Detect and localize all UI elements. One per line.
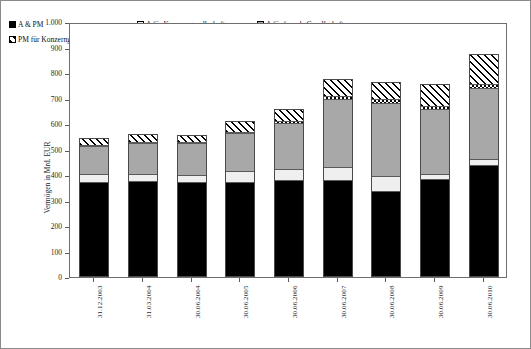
x-axis-tick-mark bbox=[191, 278, 192, 282]
x-axis-tick-mark bbox=[142, 278, 143, 282]
bar-slot bbox=[459, 24, 508, 277]
x-axis-tick-mark bbox=[337, 278, 338, 282]
stacked-bar[interactable] bbox=[420, 84, 450, 277]
bar-segment-akonz[interactable] bbox=[275, 170, 303, 181]
bar-slot bbox=[216, 24, 265, 277]
bar-segment-pmkonz[interactable] bbox=[275, 110, 303, 122]
y-axis-tick-label: 900 bbox=[28, 44, 62, 53]
bar-segment-pmkonz[interactable] bbox=[129, 135, 157, 143]
x-axis-tick-mark bbox=[385, 278, 386, 282]
y-axis-tick-label: 400 bbox=[28, 171, 62, 180]
bar-segment-pmkonz[interactable] bbox=[226, 122, 254, 133]
x-axis-tick-label: 30.06.2007 bbox=[340, 286, 348, 319]
bar-slot bbox=[167, 24, 216, 277]
stacked-bar[interactable] bbox=[274, 109, 304, 277]
x-axis-tick-label: 30.06.2010 bbox=[486, 286, 494, 319]
bar-segment-apm[interactable] bbox=[80, 183, 108, 276]
bar-segment-apm[interactable] bbox=[372, 192, 400, 276]
bar-segment-akonz[interactable] bbox=[129, 175, 157, 182]
bar-segment-akonz[interactable] bbox=[226, 172, 254, 183]
bar-segment-apm[interactable] bbox=[275, 181, 303, 276]
bar-segment-apm[interactable] bbox=[324, 181, 352, 276]
bar-segment-pmkonz[interactable] bbox=[372, 83, 400, 100]
x-axis-tick-label: 30.06.2004 bbox=[194, 286, 202, 319]
x-axis-tick-mark bbox=[93, 278, 94, 282]
x-axis-tick-mark bbox=[288, 278, 289, 282]
stacked-bar[interactable] bbox=[225, 121, 255, 277]
bar-segment-apm[interactable] bbox=[421, 180, 449, 276]
bar-slot bbox=[362, 24, 411, 277]
y-axis-tick-label: 100 bbox=[28, 248, 62, 257]
bar-segment-pmkonz[interactable] bbox=[421, 85, 449, 107]
x-axis-tick-label: 30.06.2009 bbox=[437, 286, 445, 319]
bar-slot bbox=[119, 24, 168, 277]
bar-segment-afremd[interactable] bbox=[178, 144, 206, 176]
chart-frame: A & PM A für Konzerngesellschaften A für… bbox=[0, 0, 531, 349]
stacked-bar[interactable] bbox=[177, 135, 207, 277]
bar-segment-afremd[interactable] bbox=[324, 100, 352, 168]
bar-segment-pmkonz[interactable] bbox=[324, 80, 352, 97]
y-axis-tick-label: 700 bbox=[28, 95, 62, 104]
bar-segment-pmkonz[interactable] bbox=[470, 55, 498, 85]
bar-segment-apm[interactable] bbox=[129, 182, 157, 276]
bar-segment-akonz[interactable] bbox=[80, 175, 108, 182]
bar-slot bbox=[313, 24, 362, 277]
stacked-bar[interactable] bbox=[128, 134, 158, 277]
bar-segment-afremd[interactable] bbox=[421, 110, 449, 175]
stacked-bar[interactable] bbox=[79, 138, 109, 277]
bar-slot bbox=[265, 24, 314, 277]
bar-slot bbox=[70, 24, 119, 277]
stacked-bar[interactable] bbox=[469, 54, 499, 277]
bar-segment-afremd[interactable] bbox=[470, 89, 498, 160]
bars-container bbox=[70, 24, 506, 277]
y-axis-tick-label: 300 bbox=[28, 197, 62, 206]
x-axis-tick-label: 30.06.2006 bbox=[291, 286, 299, 319]
x-axis-tick-label: 31.12.2003 bbox=[96, 286, 104, 319]
bar-segment-pmkonz[interactable] bbox=[80, 139, 108, 146]
bar-segment-afremd[interactable] bbox=[226, 134, 254, 172]
y-axis-tick-label: 600 bbox=[28, 120, 62, 129]
x-axis-tick-mark bbox=[483, 278, 484, 282]
bar-segment-afremd[interactable] bbox=[372, 104, 400, 177]
stacked-bar[interactable] bbox=[371, 82, 401, 277]
y-axis-tick-mark bbox=[65, 278, 69, 279]
x-axis-tick-mark bbox=[239, 278, 240, 282]
bar-segment-afremd[interactable] bbox=[129, 144, 157, 175]
x-axis-tick-mark bbox=[434, 278, 435, 282]
y-axis-tick-label: 500 bbox=[28, 146, 62, 155]
y-axis-tick-label: 200 bbox=[28, 222, 62, 231]
bar-segment-akonz[interactable] bbox=[372, 177, 400, 192]
y-axis-tick-label: 1.000 bbox=[28, 18, 62, 27]
bar-segment-apm[interactable] bbox=[226, 183, 254, 276]
bar-slot bbox=[411, 24, 460, 277]
bar-segment-afremd[interactable] bbox=[80, 147, 108, 175]
x-axis-tick-label: 31.03.2004 bbox=[145, 286, 153, 319]
bar-segment-pmkonz[interactable] bbox=[178, 136, 206, 143]
x-axis-tick-label: 30.06.2008 bbox=[388, 286, 396, 319]
plot-area bbox=[69, 23, 507, 278]
y-axis-tick-label: 800 bbox=[28, 69, 62, 78]
x-axis-tick-label: 30.06.2005 bbox=[242, 286, 250, 319]
bar-segment-apm[interactable] bbox=[470, 166, 498, 276]
y-axis-tick-label: 0 bbox=[28, 273, 62, 282]
stacked-bar[interactable] bbox=[323, 79, 353, 277]
bar-segment-afremd[interactable] bbox=[275, 124, 303, 170]
bar-segment-apm[interactable] bbox=[178, 183, 206, 276]
bar-segment-akonz[interactable] bbox=[324, 168, 352, 180]
bar-segment-akonz[interactable] bbox=[178, 176, 206, 183]
